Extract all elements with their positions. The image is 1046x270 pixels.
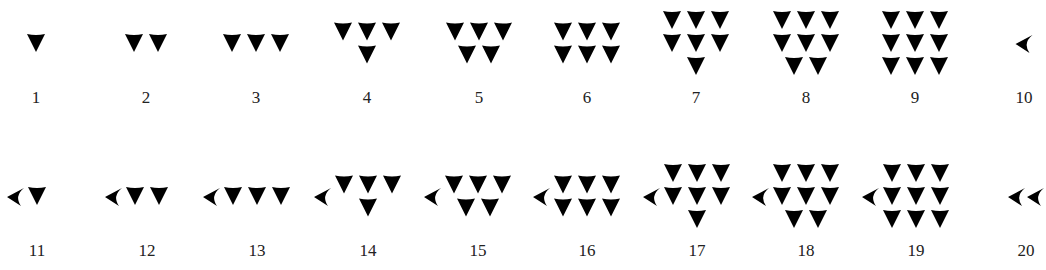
corner-wedge-icon <box>1027 188 1044 206</box>
numeral-label: 20 <box>996 242 1046 259</box>
numeral-table: 1234567891011121314151617181920 <box>0 0 1046 270</box>
corner-wedge-icon <box>1008 188 1025 206</box>
numeral-glyph-group <box>0 0 1046 270</box>
